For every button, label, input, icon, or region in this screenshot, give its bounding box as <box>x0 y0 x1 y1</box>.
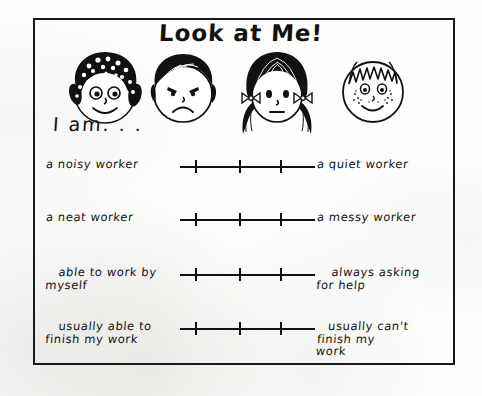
freckled-smiling-face <box>331 42 415 134</box>
scale-axis <box>180 274 315 276</box>
scale-row-noisy-quiet: a noisy worker a quiet worker <box>33 152 455 178</box>
scale-left-label: usually able to finish my work <box>45 320 152 345</box>
scale-right-label: a messy worker <box>316 211 416 224</box>
scale-axis <box>180 166 315 168</box>
scale-right-label: a quiet worker <box>316 158 408 171</box>
scale-tick[interactable] <box>280 322 282 335</box>
scale-left-label: able to work by myself <box>45 266 157 291</box>
scale-row-neat-messy: a neat worker a messy worker <box>33 205 455 231</box>
scale-axis <box>180 328 315 330</box>
scale-left-label: a noisy worker <box>45 158 138 171</box>
scale-tick[interactable] <box>280 160 282 173</box>
scale-tick[interactable] <box>239 322 241 335</box>
scale-tick[interactable] <box>239 268 241 281</box>
scale-axis <box>180 219 315 221</box>
scale-tick[interactable] <box>280 268 282 281</box>
prompt-i-am: I am. . . <box>52 113 144 135</box>
scale-tick[interactable] <box>195 322 197 335</box>
scale-tick[interactable] <box>239 213 241 226</box>
scale-row-finish-work: usually able to finish my work usually c… <box>33 316 455 362</box>
scale-tick[interactable] <box>280 213 282 226</box>
scale-right-label: usually can't finish my work <box>315 320 409 358</box>
scale-tick[interactable] <box>195 213 197 226</box>
scale-left-label: a neat worker <box>45 211 133 224</box>
scale-tick[interactable] <box>195 268 197 281</box>
scale-row-independent-help: able to work by myself always asking for… <box>33 262 455 296</box>
scale-tick[interactable] <box>195 160 197 173</box>
worksheet-page: Look at Me! <box>0 0 482 396</box>
short-hair-frowning-face <box>141 42 225 134</box>
scale-tick[interactable] <box>239 160 241 173</box>
scale-right-label: always asking for help <box>316 266 421 291</box>
pigtails-neutral-face <box>229 42 325 142</box>
